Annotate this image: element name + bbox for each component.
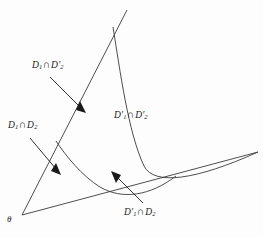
- arrow-d1-cap-d2prime: [50, 77, 86, 113]
- region-label-d1-cap-d2: D1∩D2: [8, 120, 37, 131]
- curve-boundary-d1prime: [113, 27, 258, 178]
- label-sub-2: 2: [144, 113, 147, 120]
- label-sub-2: 2: [34, 123, 37, 130]
- intersection-icon: ∩: [18, 119, 27, 130]
- ray-steep: [22, 10, 127, 215]
- region-label-d1prime-cap-d2prime: D′1∩D′2: [114, 110, 147, 121]
- region-label-d1-cap-d2prime: D1∩D′2: [32, 60, 63, 71]
- origin-theta-label: θ: [7, 214, 11, 224]
- label-sub-2: 2: [152, 210, 155, 217]
- arrow-d1prime-cap-d2: [111, 171, 143, 203]
- intersection-icon: ∩: [42, 59, 51, 70]
- label-base-1: D: [114, 110, 121, 120]
- label-base-1: D: [32, 60, 39, 70]
- label-base-1: D: [124, 207, 131, 217]
- curve-boundary-d2prime: [56, 141, 176, 195]
- label-sub-2: 2: [60, 63, 63, 70]
- set-intersection-regions-diagram: θ D1∩D′2 D1∩D2 D′1∩D′2 D′1∩D2: [0, 0, 263, 238]
- intersection-icon: ∩: [136, 206, 145, 217]
- region-label-d1prime-cap-d2: D′1∩D2: [124, 207, 155, 218]
- label-base-1: D: [8, 120, 15, 130]
- intersection-icon: ∩: [126, 109, 135, 120]
